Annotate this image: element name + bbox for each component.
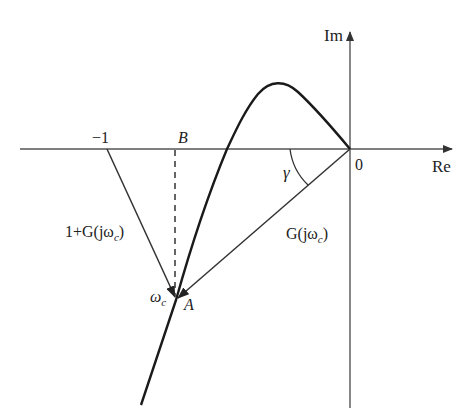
imag-axis-label: Im	[324, 26, 343, 45]
point-a-label: A	[183, 296, 194, 313]
origin-label: 0	[355, 156, 363, 173]
one-plus-g-vector	[107, 149, 175, 297]
minus-one-label: −1	[92, 129, 109, 146]
gamma-label: γ	[283, 163, 291, 182]
g-vector	[178, 149, 350, 298]
omega-c-label: ωc	[150, 288, 166, 308]
nyquist-diagram: Im Re 0 −1 B γ G(jωc) 1+G(jωc) ωc A	[0, 0, 464, 419]
one-plus-g-label: 1+G(jωc)	[65, 223, 124, 243]
real-axis-label: Re	[432, 157, 451, 176]
gamma-angle-arc	[290, 149, 308, 185]
g-vector-label: G(jωc)	[286, 225, 328, 245]
point-b-label: B	[178, 129, 188, 146]
